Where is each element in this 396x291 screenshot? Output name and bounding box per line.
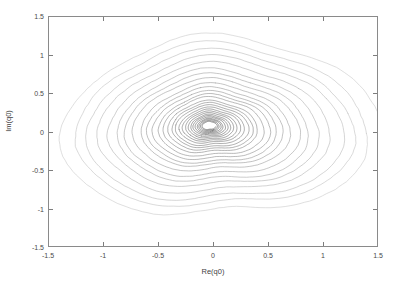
- trajectory-segment: [191, 114, 231, 138]
- trajectory-segment: [202, 121, 217, 130]
- x-tick-bottom: [323, 242, 324, 246]
- y-tick-label: 0: [22, 127, 44, 136]
- x-tick-label: -1: [100, 251, 106, 260]
- x-tick-top: [213, 17, 214, 21]
- y-tick-label: -1: [22, 204, 44, 213]
- y-tick-left: [49, 170, 53, 171]
- x-tick-top: [268, 17, 269, 21]
- y-axis-title: Im(q0): [4, 91, 14, 151]
- x-tick-bottom: [268, 242, 269, 246]
- y-tick-right: [373, 55, 377, 56]
- trajectory-segment: [158, 96, 264, 156]
- x-tick-bottom: [213, 242, 214, 246]
- trajectory-segment: [86, 48, 348, 200]
- x-tick-label: 0: [211, 251, 215, 260]
- trajectory-plot: [49, 17, 377, 246]
- y-tick-left: [49, 209, 53, 210]
- y-tick-left: [49, 55, 53, 56]
- y-tick-label: -1.5: [22, 243, 44, 252]
- trajectory-segment: [132, 78, 291, 171]
- y-tick-right: [373, 93, 377, 94]
- trajectory-segment: [163, 100, 257, 153]
- x-tick-label: 1.5: [373, 251, 383, 260]
- y-tick-label: -0.5: [22, 166, 44, 175]
- x-tick-top: [103, 17, 104, 21]
- y-tick-right: [373, 132, 377, 133]
- y-tick-label: 1: [22, 50, 44, 59]
- x-tick-top: [323, 17, 324, 21]
- figure-phase-portrait: -1.5-1-0.500.511.5 1.510.50-0.5-1-1.5 Re…: [0, 0, 396, 291]
- x-tick-bottom: [103, 242, 104, 246]
- y-tick-right: [373, 209, 377, 210]
- x-tick-label: 1: [321, 251, 325, 260]
- x-tick-bottom: [158, 242, 159, 246]
- y-tick-left: [49, 132, 53, 133]
- plot-area: [48, 16, 378, 247]
- y-tick-label: 1.5: [22, 12, 44, 21]
- y-tick-right: [373, 170, 377, 171]
- x-tick-label: -0.5: [152, 251, 164, 260]
- x-axis-title: Re(q0): [48, 267, 378, 277]
- x-tick-top: [158, 17, 159, 21]
- x-tick-label: 0.5: [263, 251, 273, 260]
- trajectory-segment: [117, 68, 308, 181]
- y-tick-left: [49, 93, 53, 94]
- y-tick-label: 0.5: [22, 89, 44, 98]
- x-tick-label: -1.5: [42, 251, 54, 260]
